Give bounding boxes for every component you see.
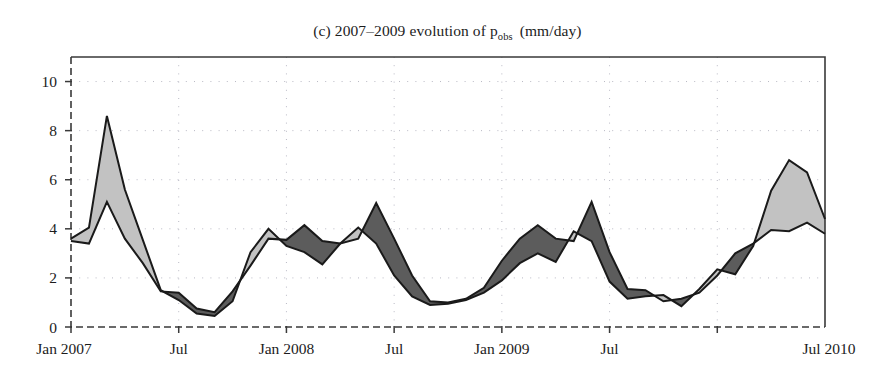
axis-frame-top-right — [71, 57, 825, 327]
x-tick-label: Jan 2007 — [36, 340, 92, 357]
series-lines-group — [71, 116, 825, 316]
figure-container: (c) 2007–2009 evolution of pobs(mm/day) … — [0, 0, 895, 378]
y-tick-label: 2 — [49, 269, 57, 286]
series-line-model — [71, 116, 825, 316]
x-tick-label: Jan 2009 — [474, 340, 530, 357]
axis-frame — [71, 57, 825, 327]
x-tick-label: Jul 2010 — [803, 340, 856, 357]
y-tick-label: 6 — [49, 171, 57, 188]
x-tick-labels-group: Jan 2007JulJan 2008JulJan 2009JulJul 201… — [36, 340, 856, 357]
x-tick-label: Jul — [170, 340, 188, 357]
band-above-segment — [71, 116, 163, 292]
x-tick-label: Jul — [601, 340, 619, 357]
series-line-obs — [71, 202, 825, 312]
y-tick-label: 10 — [42, 73, 58, 90]
y-tick-label: 0 — [49, 319, 57, 336]
x-tick-label: Jan 2008 — [259, 340, 315, 357]
axis-frame-left-bottom — [71, 57, 825, 327]
band-below-segment — [577, 202, 654, 299]
band-fills-group — [71, 116, 825, 316]
y-tick-label: 8 — [49, 122, 57, 139]
y-tick-labels-group: 0246810 — [42, 73, 58, 335]
y-tick-label: 4 — [49, 220, 57, 237]
gridlines-group — [71, 57, 825, 327]
x-tick-label: Jul — [385, 340, 403, 357]
tickmarks-group — [65, 82, 717, 333]
chart-plot-area: 0246810 Jan 2007JulJan 2008JulJan 2009Ju… — [0, 0, 895, 378]
